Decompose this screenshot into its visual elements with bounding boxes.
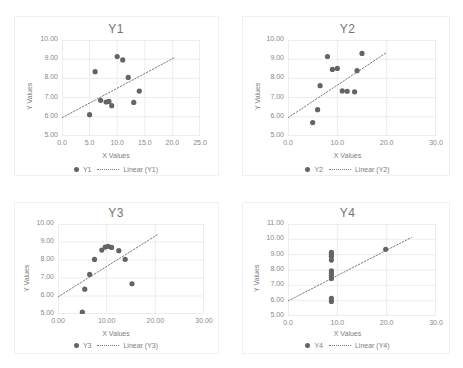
legend-dotted-line-icon (329, 169, 351, 170)
plot-svg-y3 (58, 224, 204, 314)
y-tick-label: 5.00 (16, 309, 54, 316)
x-axis-label-y4: X Values (232, 330, 463, 337)
chart-grid: Y1 Y Values X Values Y1 Linear (Y1) 5.00… (0, 0, 463, 368)
legend-marker-icon (74, 167, 79, 172)
legend-trend-label-y1: Linear (Y1) (123, 166, 158, 173)
x-axis-label-y3: X Values (0, 330, 232, 337)
y-tick-label: 8.00 (20, 73, 58, 80)
x-tick-label: 0.0 (272, 319, 304, 326)
x-tick-label: 0.0 (272, 139, 304, 146)
y-tick-label: 7.00 (20, 93, 58, 100)
x-tick-label: 10.00 (91, 317, 123, 324)
y-tick-label: 7.00 (246, 280, 284, 287)
legend-trend-label-y4: Linear (Y4) (355, 342, 390, 349)
legend-series-label-y3: Y3 (83, 342, 92, 349)
chart-title-y3: Y3 (0, 206, 232, 220)
chart-title-y1: Y1 (0, 22, 232, 36)
chart-panel-y2: Y2 Y Values X Values Y2 Linear (Y2) 5.00… (232, 0, 463, 190)
legend-series-label-y4: Y4 (314, 342, 323, 349)
legend-y1: Y1 Linear (Y1) (0, 166, 232, 173)
chart-panel-y3: Y3 Y Values X Values Y3 Linear (Y3) 5.00… (0, 190, 232, 368)
y-tick-label: 5.00 (20, 131, 58, 138)
x-tick-label: 30.0 (420, 319, 452, 326)
x-tick-label: 25.0 (184, 139, 216, 146)
chart-panel-y1: Y1 Y Values X Values Y1 Linear (Y1) 5.00… (0, 0, 232, 190)
plot-area-y2 (288, 40, 436, 136)
legend-trend-y3: Linear (Y3) (97, 342, 158, 349)
legend-marker-icon (305, 167, 310, 172)
legend-trend-y1: Linear (Y1) (97, 166, 158, 173)
y-tick-label: 7.00 (16, 273, 54, 280)
legend-trend-label-y3: Linear (Y3) (123, 342, 158, 349)
x-tick-label: 30.00 (188, 317, 220, 324)
legend-series-label-y1: Y1 (83, 166, 92, 173)
legend-marker-icon (74, 343, 79, 348)
x-tick-label: 10.0 (321, 139, 353, 146)
x-tick-label: 10.0 (321, 319, 353, 326)
legend-y3: Y3 Linear (Y3) (0, 342, 232, 349)
plot-svg-y1 (62, 40, 200, 136)
y-tick-label: 10.00 (20, 35, 58, 42)
x-axis-label-y1: X Values (0, 152, 232, 159)
legend-trend-y2: Linear (Y2) (329, 166, 390, 173)
legend-dotted-line-icon (97, 169, 119, 170)
plot-svg-y2 (288, 40, 436, 136)
chart-title-y4: Y4 (232, 206, 463, 220)
legend-series-y3: Y3 (74, 342, 92, 349)
y-tick-label: 9.00 (20, 54, 58, 61)
legend-series-label-y2: Y2 (314, 166, 323, 173)
y-tick-label: 11.00 (246, 219, 284, 226)
y-tick-label: 8.00 (246, 265, 284, 272)
y-tick-label: 9.00 (16, 237, 54, 244)
y-tick-label: 5.00 (246, 311, 284, 318)
y-tick-label: 6.00 (246, 112, 284, 119)
chart-panel-y4: Y4 Y Values X Values Y4 Linear (Y4) 5.00… (232, 190, 463, 368)
x-tick-label: 20.0 (371, 139, 403, 146)
y-tick-label: 8.00 (246, 73, 284, 80)
legend-trend-y4: Linear (Y4) (329, 342, 390, 349)
legend-series-y2: Y2 (305, 166, 323, 173)
y-tick-label: 6.00 (20, 112, 58, 119)
legend-y2: Y2 Linear (Y2) (232, 166, 463, 173)
y-tick-label: 10.00 (246, 234, 284, 241)
y-tick-label: 8.00 (16, 255, 54, 262)
y-tick-label: 9.00 (246, 250, 284, 257)
y-tick-label: 9.00 (246, 54, 284, 61)
y-tick-label: 6.00 (16, 291, 54, 298)
legend-marker-icon (305, 343, 310, 348)
chart-title-y2: Y2 (232, 22, 463, 36)
y-tick-label: 5.00 (246, 131, 284, 138)
y-tick-label: 10.00 (246, 35, 284, 42)
legend-dotted-line-icon (329, 345, 351, 346)
plot-area-y3 (58, 224, 204, 314)
x-tick-label: 20.00 (139, 317, 171, 324)
y-tick-label: 10.00 (16, 219, 54, 226)
legend-series-y4: Y4 (305, 342, 323, 349)
x-tick-label: 30.0 (420, 139, 452, 146)
x-tick-label: 0.00 (42, 317, 74, 324)
plot-area-y4 (288, 224, 436, 316)
plot-svg-y4 (288, 224, 436, 316)
plot-area-y1 (62, 40, 200, 136)
legend-dotted-line-icon (97, 345, 119, 346)
legend-series-y1: Y1 (74, 166, 92, 173)
legend-y4: Y4 Linear (Y4) (232, 342, 463, 349)
y-tick-label: 7.00 (246, 93, 284, 100)
y-tick-label: 6.00 (246, 296, 284, 303)
legend-trend-label-y2: Linear (Y2) (355, 166, 390, 173)
x-axis-label-y2: X Values (232, 152, 463, 159)
x-tick-label: 20.0 (371, 319, 403, 326)
